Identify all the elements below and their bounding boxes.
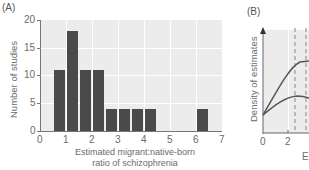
x-tick-label: 0 <box>260 137 266 147</box>
lower-density-curve <box>263 96 309 115</box>
x-tick-label: 2 <box>285 137 291 147</box>
y-axis-title: Density of estimates <box>248 36 259 122</box>
y-axis-arrow-icon <box>260 27 266 34</box>
upper-density-curve <box>263 61 309 115</box>
x-axis-title: E <box>302 152 309 162</box>
